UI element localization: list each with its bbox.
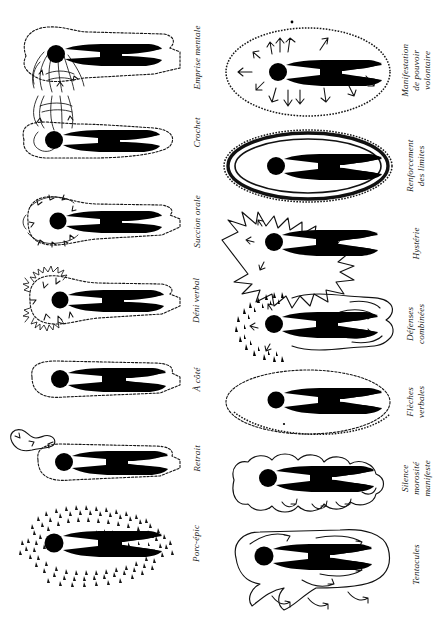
figure-defenses-combinees xyxy=(220,282,396,366)
figure-cell-fleches-verbales: Flèches verbales xyxy=(218,362,437,442)
figure-cell-a-cote: À côté xyxy=(0,345,218,413)
figure-tentacules xyxy=(220,512,396,616)
figure-a-cote xyxy=(4,345,180,413)
caption-silence-morosite-manifeste: Silence morosité manifeste xyxy=(397,438,435,518)
figure-cell-silence-morosite-manifeste: Silence morosité manifeste xyxy=(218,438,437,518)
caption-text: Manifestation de pouvoir volontaire xyxy=(400,43,433,96)
figure-renforcement-des-limites xyxy=(220,126,396,206)
figure-cell-retrait: Retrait xyxy=(0,420,218,496)
caption-defenses-combinees: Défenses combinées xyxy=(397,282,435,366)
left-column: Emprise mentale xyxy=(0,0,218,634)
figure-cell-succion-orale: Succion orale xyxy=(0,185,218,257)
caption-retrait: Retrait xyxy=(178,420,216,496)
caption-text: Silence morosité manifeste xyxy=(400,459,433,497)
caption-manifestation-de-pouvoir-volontaire: Manifestation de pouvoir volontaire xyxy=(397,14,435,126)
figure-deni-verbal xyxy=(4,262,180,338)
caption-text: Succion orale xyxy=(192,195,203,248)
caption-hysterie: Hystérie xyxy=(397,200,435,286)
caption-text: Déni verbal xyxy=(192,277,203,322)
figure-emprise-mentale xyxy=(4,18,180,96)
caption-text: Hystérie xyxy=(411,227,422,259)
figure-cell-crochet: Crochet xyxy=(0,96,218,168)
figure-fleches-verbales xyxy=(220,362,396,442)
figure-cell-tentacules: Tentacules xyxy=(218,512,437,616)
caption-text: À côté xyxy=(192,367,203,391)
figure-silence-morosite-manifeste xyxy=(220,438,396,518)
caption-renforcement-des-limites: Renforcement des limites xyxy=(397,126,435,206)
figure-plate: Emprise mentale xyxy=(0,0,437,634)
figure-crochet xyxy=(4,96,180,168)
caption-deni-verbal: Déni verbal xyxy=(178,262,216,338)
caption-text: Crochet xyxy=(192,117,203,147)
caption-crochet: Crochet xyxy=(178,96,216,168)
caption-a-cote: À côté xyxy=(178,345,216,413)
caption-emprise-mentale: Emprise mentale xyxy=(178,18,216,96)
figure-cell-hysterie: Hystérie xyxy=(218,200,437,286)
caption-text: Renforcement des limites xyxy=(405,140,427,192)
caption-text: Emprise mentale xyxy=(192,25,203,89)
caption-text: Tentacules xyxy=(411,544,422,584)
figure-retrait xyxy=(4,420,180,496)
figure-cell-defenses-combinees: Défenses combinées xyxy=(218,282,437,366)
caption-text: Flèches verbales xyxy=(405,383,427,421)
figure-manifestation-de-pouvoir-volontaire xyxy=(220,14,396,126)
figure-cell-manifestation-de-pouvoir-volontaire: Manifestation de pouvoir volontaire xyxy=(218,14,437,126)
figure-hysterie xyxy=(220,200,396,286)
figure-cell-deni-verbal: Déni verbal xyxy=(0,262,218,338)
caption-text: Défenses combinées xyxy=(405,304,427,344)
figure-porc-epic xyxy=(4,500,180,586)
caption-text: Retrait xyxy=(192,445,203,472)
right-column: Manifestation de pouvoir volontaire xyxy=(218,0,437,634)
caption-succion-orale: Succion orale xyxy=(178,185,216,257)
caption-fleches-verbales: Flèches verbales xyxy=(397,362,435,442)
figure-cell-emprise-mentale: Emprise mentale xyxy=(0,18,218,96)
caption-porc-epic: Porc-épic xyxy=(178,500,216,586)
figure-succion-orale xyxy=(4,185,180,257)
figure-cell-porc-epic: Porc-épic xyxy=(0,500,218,586)
caption-text: Porc-épic xyxy=(192,524,203,561)
figure-cell-renforcement-des-limites: Renforcement des limites xyxy=(218,126,437,206)
caption-tentacules: Tentacules xyxy=(397,512,435,616)
